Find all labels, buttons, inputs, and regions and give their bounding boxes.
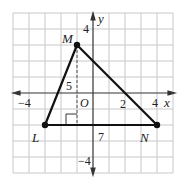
vertex-M-label: M bbox=[61, 31, 74, 46]
tick-label-y-neg4: −4 bbox=[78, 154, 91, 168]
height-measurement-label: 5 bbox=[66, 79, 72, 93]
triangle-LMN bbox=[45, 45, 157, 125]
vertex-L-label: L bbox=[31, 130, 39, 145]
base-measurement-label: 7 bbox=[98, 130, 104, 144]
tick-label-x-neg4: −4 bbox=[18, 96, 31, 110]
origin-label: O bbox=[80, 96, 89, 110]
vertex-L-point bbox=[42, 122, 48, 128]
vertex-M-point bbox=[74, 42, 80, 48]
x-axis-label: x bbox=[163, 95, 170, 110]
coordinate-plane-figure: M L N y x −4 2 4 4 −4 O 5 7 bbox=[0, 0, 180, 184]
vertex-N-point bbox=[154, 122, 160, 128]
x-axis bbox=[13, 91, 175, 95]
tick-label-y-4: 4 bbox=[83, 22, 89, 36]
tick-label-x-4: 4 bbox=[152, 96, 158, 110]
right-angle-marker bbox=[66, 114, 77, 125]
y-axis bbox=[91, 13, 95, 175]
vertex-N-label: N bbox=[139, 130, 150, 145]
y-axis-label: y bbox=[96, 11, 104, 26]
tick-label-x-2: 2 bbox=[120, 97, 126, 111]
